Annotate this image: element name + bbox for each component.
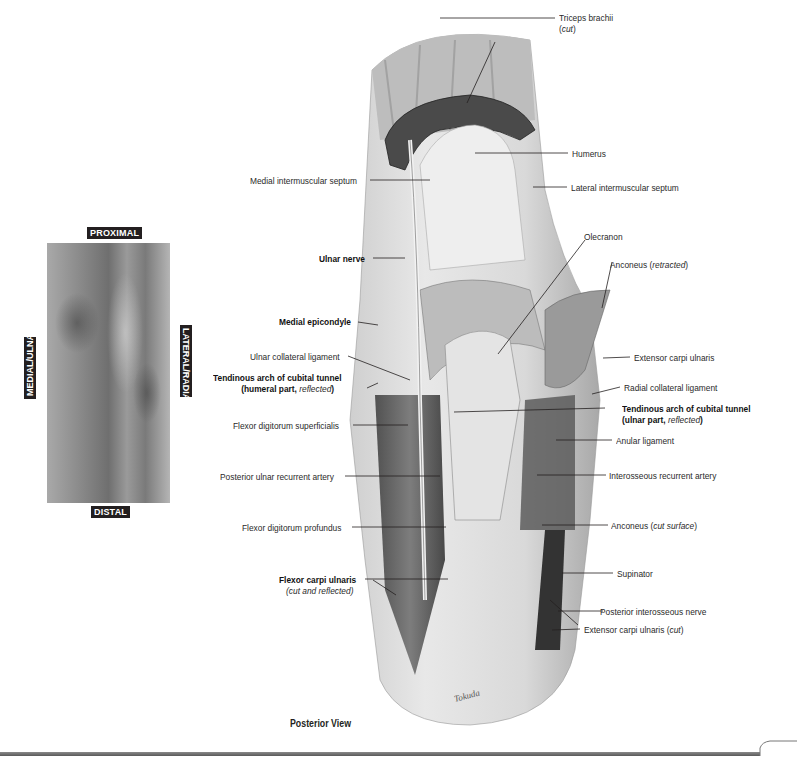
label-flexor-digitorum-superficialis: Flexor digitorum superficialis [233,420,339,431]
label-extensor-carpi-ulnaris: Extensor carpi ulnaris [634,352,714,363]
label-interosseous-recurrent-artery: Interosseous recurrent artery [609,470,716,481]
label-medial-epicondyle: Medial epicondyle [279,316,351,327]
label-ulnar-nerve: Ulnar nerve [319,253,365,264]
label-flexor-carpi-ulnaris: Flexor carpi ulnaris (cut and reflected) [279,574,356,596]
label-posterior-interosseous-nerve: Posterior interosseous nerve [600,606,706,617]
label-radial-collateral-ligament: Radial collateral ligament [624,382,717,393]
label-olecranon: Olecranon [584,231,623,242]
label-lateral-intermuscular-septum: Lateral intermuscular septum [571,182,679,193]
label-ulnar-collateral-ligament: Ulnar collateral ligament [250,351,340,362]
label-supinator: Supinator [617,568,653,579]
label-anconeus-cut-surface: Anconeus (cut surface) [611,520,697,531]
page-footer-bar [0,752,760,756]
label-medial-intermuscular-septum: Medial intermuscular septum [250,175,357,186]
label-posterior-ulnar-recurrent-artery: Posterior ulnar recurrent artery [220,471,334,482]
label-tendinous-arch-humeral: Tendinous arch of cubital tunnel (humera… [213,372,342,394]
label-anular-ligament: Anular ligament [616,435,674,446]
label-humerus: Humerus [572,148,606,159]
label-extensor-carpi-ulnaris-cut: Extensor carpi ulnaris (cut) [584,624,683,635]
label-flexor-digitorum-profundus: Flexor digitorum profundus [242,522,341,533]
label-tendinous-arch-ulnar: Tendinous arch of cubital tunnel (ulnar … [622,403,751,425]
view-caption: Posterior View [290,718,351,729]
label-triceps-brachii: Triceps brachii (cut) [559,12,613,34]
label-anconeus-retracted: Anconeus (retracted) [610,259,688,270]
